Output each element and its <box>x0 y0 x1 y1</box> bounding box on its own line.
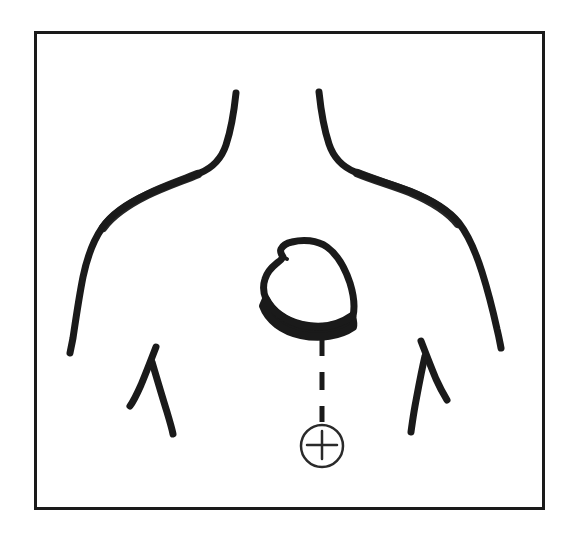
device-marker <box>301 425 343 467</box>
torso-diagram-svg: Hand-drawn outline of a human upper tors… <box>0 0 574 537</box>
figure-root: Hand-drawn outline of a human upper tors… <box>0 0 574 537</box>
heart-notch-tick <box>282 257 287 259</box>
